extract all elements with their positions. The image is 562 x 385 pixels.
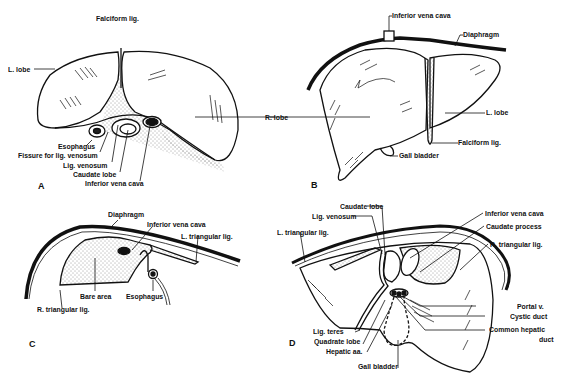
label-a-caudate-lobe: Caudate lobe bbox=[73, 171, 116, 179]
label-a-l-lobe: L. lobe bbox=[8, 66, 30, 74]
label-c-l-triangular: L. triangular lig. bbox=[181, 233, 233, 241]
label-b-ivc: Inferior vena cava bbox=[392, 12, 451, 20]
label-d-gall-bladder: Gall bladder bbox=[358, 363, 398, 371]
label-a-r-lobe: R. lobe bbox=[265, 114, 288, 122]
label-b-falciform: Falciform lig. bbox=[458, 139, 501, 147]
label-d-quadrate-lobe: Quadrate lobe bbox=[314, 338, 360, 346]
label-d-r-triangular: R. triangular lig. bbox=[490, 241, 543, 249]
panel-letter-a: A bbox=[38, 181, 45, 191]
label-a-fissure: Fissure for lig. venosum bbox=[18, 152, 98, 160]
label-a-lig-venosum: Lig. venosum bbox=[63, 162, 107, 170]
label-d-common-hepatic: Common hepatic bbox=[489, 326, 545, 334]
label-c-bare-area: Bare area bbox=[80, 293, 111, 301]
label-b-l-lobe: L. lobe bbox=[486, 109, 508, 117]
panel-letter-d: D bbox=[289, 338, 296, 348]
label-d-portal: Portal v. bbox=[517, 303, 544, 311]
label-b-diaphragm: Diaphragm bbox=[463, 31, 499, 39]
label-a-esophagus: Esophagus bbox=[58, 143, 95, 151]
label-b-gall-bladder: Gall bladder bbox=[399, 152, 439, 160]
label-a-falciform: Falciform lig. bbox=[96, 15, 139, 23]
label-d-lig-venosum: Lig. venosum bbox=[312, 213, 356, 221]
label-d-cystic-duct: Cystic duct bbox=[510, 313, 547, 321]
diagram-artwork bbox=[0, 0, 562, 385]
label-d-common-hepatic-duct: duct bbox=[539, 336, 554, 344]
label-d-ivc: Inferior vena cava bbox=[485, 210, 544, 218]
label-d-caudate-process: Caudate process bbox=[486, 223, 542, 231]
liver-anatomy-figure: Falciform lig. L. lobe R. lobe Esophagus… bbox=[0, 0, 562, 385]
label-c-esophagus: Esophagus bbox=[126, 293, 163, 301]
label-d-caudate-lobe: Caudate lobe bbox=[340, 203, 383, 211]
label-c-r-triangular: R. triangular lig. bbox=[37, 306, 90, 314]
label-c-diaphragm: Diaphragm bbox=[108, 211, 144, 219]
label-d-lig-teres: Lig. teres bbox=[313, 328, 344, 336]
label-c-ivc: Inferior vena cava bbox=[147, 221, 206, 229]
panel-b-drawing bbox=[270, 16, 506, 180]
label-d-hepatic-aa: Hepatic aa. bbox=[326, 348, 362, 356]
label-d-l-triangular: L. triangular lig. bbox=[277, 229, 329, 237]
label-a-ivc: Inferior vena cava bbox=[85, 180, 144, 188]
panel-letter-b: B bbox=[311, 180, 318, 190]
panel-letter-c: C bbox=[29, 339, 36, 349]
